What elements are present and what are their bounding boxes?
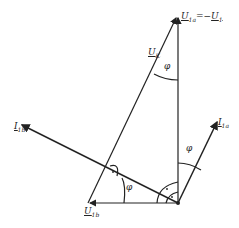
phi-right-label: φ — [186, 144, 192, 153]
u1b-label: U1b — [84, 207, 99, 218]
phasor-diagram: U1a=−U1 UK φ I1b I1a φ φ U1b — [0, 0, 239, 228]
i1b-label: I1b — [14, 122, 25, 133]
i1a-label: I1a — [218, 118, 229, 129]
i1a-vector — [178, 122, 217, 203]
u1a-label: U1a=−U1 — [181, 12, 223, 23]
uk-vector — [88, 18, 176, 203]
phi-bottom-label: φ — [126, 183, 132, 192]
diagram-canvas — [0, 0, 239, 228]
i1b-vector — [22, 125, 178, 203]
phi-arc-bottom — [122, 178, 125, 203]
phi-arc-top — [154, 74, 178, 80]
origin-point — [176, 201, 180, 205]
uk-label: UK — [148, 48, 160, 59]
phi-top-label: φ — [164, 62, 170, 71]
